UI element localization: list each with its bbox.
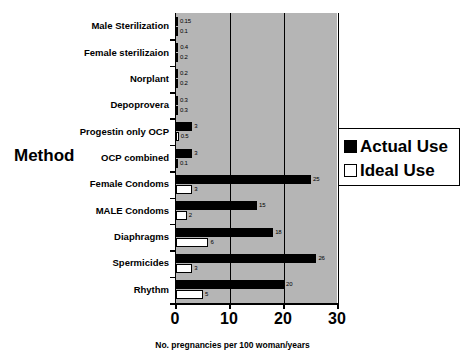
y-axis-category-label: Female Condoms xyxy=(39,178,169,189)
plot-area: 0.150.10.40.20.20.20.30.330.530.12531521… xyxy=(175,13,337,303)
x-axis-title: No. pregnancies per 100 woman/years xyxy=(0,340,465,350)
chart-figure: Method Male SterilizationFemale steriliz… xyxy=(0,0,465,364)
bar-value-label: 3 xyxy=(194,150,197,157)
y-axis-category-label: Norplant xyxy=(39,73,169,84)
bar-value-label: 0.3 xyxy=(180,107,188,114)
bar-value-label: 20 xyxy=(286,281,292,288)
y-axis-tick xyxy=(170,145,175,147)
bar-value-label: 3 xyxy=(194,265,197,272)
bar-value-label: 0.15 xyxy=(180,18,191,25)
y-axis-category-label: Depoprovera xyxy=(39,99,169,110)
y-axis-tick xyxy=(170,171,175,173)
bar-value-label: 18 xyxy=(275,229,281,236)
y-axis-tick xyxy=(170,250,175,252)
bar-ideal-use xyxy=(176,238,208,247)
bar-value-label: 25 xyxy=(313,176,319,183)
y-axis-tick xyxy=(170,118,175,120)
y-axis-tick xyxy=(170,303,175,305)
y-axis-tick xyxy=(170,92,175,94)
bar-value-label: 26 xyxy=(318,255,324,262)
y-axis-category-label: Rhythm xyxy=(39,284,169,295)
bar-value-label: 0.3 xyxy=(180,97,188,104)
bar-actual-use xyxy=(176,201,257,210)
bar-actual-use xyxy=(176,17,178,26)
chart-legend: Actual Use Ideal Use xyxy=(338,128,460,186)
y-axis-category-label: MALE Condoms xyxy=(39,205,169,216)
x-axis-tick-labels: 0102030 xyxy=(175,310,338,332)
bar-ideal-use xyxy=(176,79,178,88)
bar-value-label: 15 xyxy=(259,202,265,209)
bar-actual-use xyxy=(176,175,311,184)
x-axis-tick xyxy=(229,303,231,309)
y-axis-category-label: Diaphragms xyxy=(39,231,169,242)
bar-value-label: 0.4 xyxy=(180,44,188,51)
x-axis-tick xyxy=(337,303,339,309)
x-axis-tick xyxy=(175,303,177,309)
bar-actual-use xyxy=(176,149,192,158)
bar-value-label: 0.1 xyxy=(180,160,188,167)
bar-value-label: 0.2 xyxy=(180,54,188,61)
bar-ideal-use xyxy=(176,290,203,299)
x-axis-tick xyxy=(283,303,285,309)
bar-actual-use xyxy=(176,280,284,289)
y-axis-category-label: Progestin only OCP xyxy=(39,126,169,137)
bar-value-label: 3 xyxy=(194,123,197,130)
y-axis-category-label: Spermicides xyxy=(39,257,169,268)
x-tick-label: 20 xyxy=(274,310,292,328)
bar-ideal-use xyxy=(176,185,192,194)
y-axis-category-labels: Male SterilizationFemale sterilizaionNor… xyxy=(36,0,169,304)
y-axis-tick xyxy=(170,66,175,68)
bar-actual-use xyxy=(176,254,316,263)
x-tick-label: 0 xyxy=(171,310,180,328)
filled-square-icon xyxy=(344,140,357,153)
legend-item-ideal-use: Ideal Use xyxy=(344,158,455,182)
bar-actual-use xyxy=(176,228,273,237)
bar-ideal-use xyxy=(176,27,178,36)
bar-ideal-use xyxy=(176,264,192,273)
y-axis-category-label: Male Sterilization xyxy=(39,20,169,31)
y-axis-tick xyxy=(170,224,175,226)
legend-label-ideal-use: Ideal Use xyxy=(360,162,435,179)
y-axis-category-label: Female sterilizaion xyxy=(39,47,169,58)
bar-actual-use xyxy=(176,96,178,105)
bar-value-label: 6 xyxy=(210,239,213,246)
bar-ideal-use xyxy=(176,211,187,220)
legend-label-actual-use: Actual Use xyxy=(360,138,448,155)
bar-actual-use xyxy=(176,69,178,78)
y-axis-tick xyxy=(170,39,175,41)
bar-ideal-use xyxy=(176,132,179,141)
bar-ideal-use xyxy=(176,159,178,168)
bar-value-label: 0.5 xyxy=(181,133,189,140)
x-axis-line xyxy=(175,303,338,305)
hollow-square-icon xyxy=(344,164,357,177)
bar-actual-use xyxy=(176,43,178,52)
bar-value-label: 0.2 xyxy=(180,70,188,77)
bar-value-label: 0.2 xyxy=(180,80,188,87)
bar-value-label: 5 xyxy=(205,291,208,298)
bar-value-label: 3 xyxy=(194,186,197,193)
bar-ideal-use xyxy=(176,106,178,115)
y-axis-category-label: OCP combined xyxy=(39,152,169,163)
legend-item-actual-use: Actual Use xyxy=(344,134,455,158)
x-tick-label: 30 xyxy=(328,310,346,328)
y-axis-tick xyxy=(170,198,175,200)
bar-ideal-use xyxy=(176,53,178,62)
bar-value-label: 2 xyxy=(189,212,192,219)
bar-value-label: 0.1 xyxy=(180,28,188,35)
x-tick-label: 10 xyxy=(220,310,238,328)
y-axis-tick xyxy=(170,277,175,279)
bar-actual-use xyxy=(176,122,192,131)
